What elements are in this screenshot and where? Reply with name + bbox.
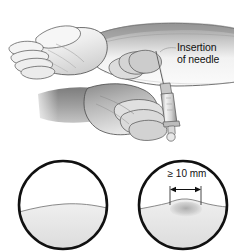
callout-line-1: Insertion — [177, 42, 219, 54]
circle-negative-reaction — [19, 161, 107, 249]
callout-line-2: of needle — [177, 54, 219, 66]
needle-insertion-callout: Insertion of needle — [177, 42, 219, 65]
sleeve-fade — [30, 84, 58, 124]
induration-measurement-label: ≥ 10 mm — [156, 168, 218, 179]
grip-finger-3 — [129, 120, 167, 140]
figure-root: Insertion of needle ≥ 10 mm — [0, 0, 234, 252]
induration-shadow — [170, 202, 202, 217]
illustration-canvas — [0, 0, 234, 252]
plunger-thumb-rest — [167, 133, 175, 141]
